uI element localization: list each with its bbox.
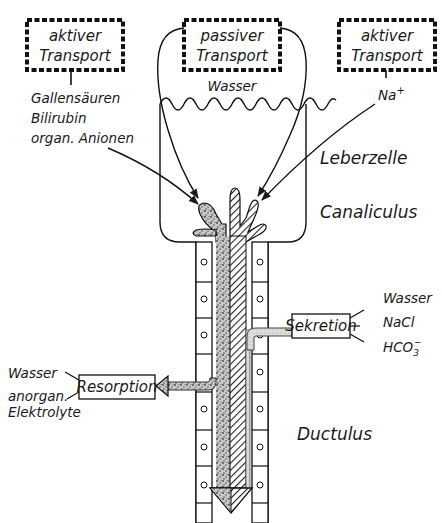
na-label: Na+ xyxy=(378,85,405,103)
bile-flow-secretion xyxy=(246,330,250,490)
box-label-line2: Transport xyxy=(196,47,269,65)
resorption-item-wasser: Wasser xyxy=(8,365,58,381)
resorption-box: Resorption xyxy=(65,372,158,399)
sekretion-item-hco3: HCO3− xyxy=(383,337,422,358)
bile-flow-hatched xyxy=(230,236,246,488)
transport-box-aktiv-left: aktiver Transport xyxy=(27,20,123,85)
transport-box-passiv: passiver Transport xyxy=(184,20,280,70)
substance-organ-anionen: organ. Anionen xyxy=(31,130,134,146)
label-ductulus: Ductulus xyxy=(297,424,372,444)
canaliculus-hatched-branches xyxy=(230,188,266,242)
box-label-line2: Transport xyxy=(39,47,112,65)
sekretion-item-wasser: Wasser xyxy=(383,290,433,306)
label-leberzelle: Leberzelle xyxy=(320,148,407,168)
wavy-membrane xyxy=(160,98,336,110)
resorption-item-elektrolyte: Elektrolyte xyxy=(8,404,81,420)
box-label-line1: aktiver xyxy=(49,27,102,45)
wasser-top-label: Wasser xyxy=(208,78,258,94)
na-text: Na xyxy=(378,87,396,103)
anion-arrow xyxy=(108,148,198,204)
resorption-item-anorgan: anorgan. xyxy=(8,388,68,404)
box-label-line1: aktiver xyxy=(361,27,414,45)
substance-bilirubin: Bilirubin xyxy=(31,110,87,126)
box-label-line2: Transport xyxy=(351,47,424,65)
duct-wall-right xyxy=(252,242,268,523)
sekretion-item-nacl: NaCl xyxy=(383,314,415,330)
sekretion-box: Sekretion xyxy=(285,310,364,342)
resorption-arrow-icon xyxy=(156,376,168,396)
label-canaliculus: Canaliculus xyxy=(320,202,418,222)
left-substances-label: Gallensäuren Bilirubin organ. Anionen xyxy=(31,90,134,146)
resorption-label: Resorption xyxy=(76,378,157,396)
bile-secretion-diagram: aktiver Transport passiver Transport akt… xyxy=(0,0,442,523)
sekretion-label: Sekretion xyxy=(285,317,357,335)
na-superscript: + xyxy=(396,85,404,96)
transport-box-aktiv-right: aktiver Transport xyxy=(339,20,435,78)
svg-text:Na+: Na+ xyxy=(378,85,405,103)
box-label-line1: passiver xyxy=(200,27,265,45)
substance-gallensaeuren: Gallensäuren xyxy=(31,90,120,106)
